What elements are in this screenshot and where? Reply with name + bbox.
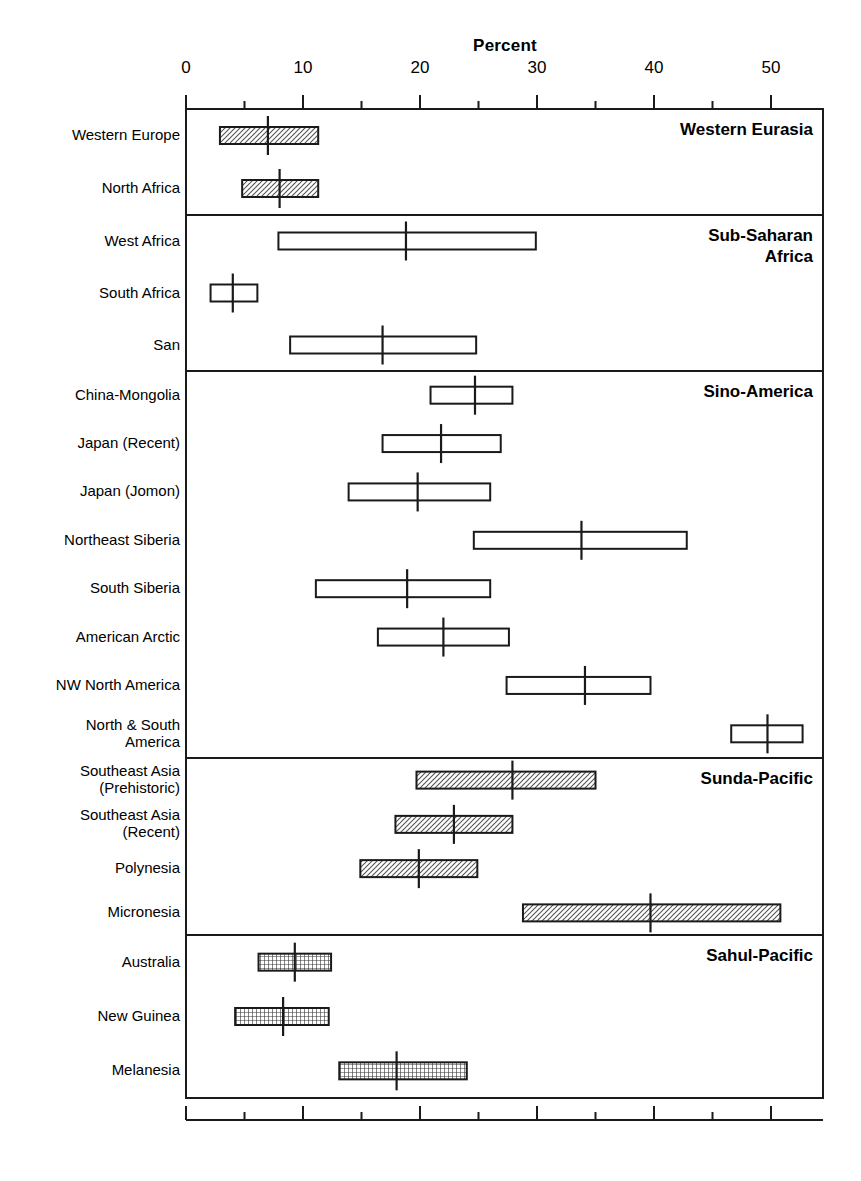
range-box <box>507 677 651 694</box>
range-box <box>316 580 490 597</box>
range-box <box>339 1062 467 1079</box>
chart-canvas: Percent 01020304050 Western EuropeNorth … <box>0 0 861 1181</box>
range-boxes <box>211 116 803 1090</box>
range-box <box>474 532 687 549</box>
range-box <box>278 233 535 250</box>
range-box <box>416 772 595 789</box>
plot-svg <box>0 0 861 1181</box>
range-box <box>235 1008 329 1025</box>
range-box <box>431 387 513 404</box>
range-box <box>211 285 258 302</box>
range-box <box>523 904 780 921</box>
range-box <box>349 483 491 500</box>
range-box <box>220 127 318 144</box>
